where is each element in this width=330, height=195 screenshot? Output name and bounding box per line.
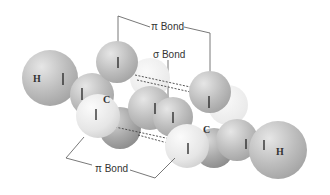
- atom-label-h-right: H: [276, 146, 284, 157]
- atom-label-c-left: C: [103, 94, 110, 105]
- p-orbital-bottom-left-front: [76, 94, 120, 138]
- atom-label-h-left: H: [33, 73, 41, 84]
- p-orbital-top-right: [189, 71, 231, 113]
- sigma-bond-label: σ Bond: [153, 49, 185, 60]
- pi-bond-bottom-label: π Bond: [95, 163, 128, 174]
- pi-bond-top-label: π Bond: [151, 21, 184, 32]
- ethylene-bond-diagram: π Bond σ Bond π Bond: [0, 0, 330, 195]
- hydrogen-left-sphere: [22, 50, 78, 106]
- p-orbital-top-left: [96, 41, 138, 83]
- atom-label-c-right: C: [203, 124, 210, 135]
